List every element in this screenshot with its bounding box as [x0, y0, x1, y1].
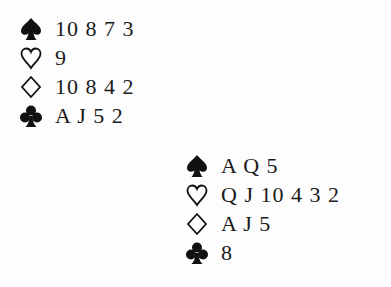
- spades-cards: 10 8 7 3: [55, 16, 135, 42]
- club-icon: [185, 241, 209, 265]
- spades-row: A Q 5: [185, 153, 209, 179]
- clubs-cards: A J 5 2: [55, 103, 124, 129]
- diamonds-cards: 10 8 4 2: [55, 74, 135, 100]
- spade-icon: [19, 17, 43, 41]
- diamonds-row: 10 8 4 2: [19, 74, 43, 100]
- club-icon: [19, 104, 43, 128]
- hearts-cards: 9: [55, 45, 67, 71]
- spades-cards: A Q 5: [221, 153, 279, 179]
- spade-icon: [185, 154, 209, 178]
- hearts-row: 9: [19, 45, 43, 71]
- clubs-cards: 8: [221, 240, 233, 266]
- diamond-icon: [19, 75, 43, 99]
- hearts-row: Q J 10 4 3 2: [185, 182, 209, 208]
- diamonds-cards: A J 5: [221, 211, 271, 237]
- diamonds-row: A J 5: [185, 211, 209, 237]
- heart-icon: [19, 46, 43, 70]
- hearts-cards: Q J 10 4 3 2: [221, 182, 340, 208]
- clubs-row: 8: [185, 240, 209, 266]
- spades-row: 10 8 7 3: [19, 16, 43, 42]
- diamond-icon: [185, 212, 209, 236]
- heart-icon: [185, 183, 209, 207]
- clubs-row: A J 5 2: [19, 103, 43, 129]
